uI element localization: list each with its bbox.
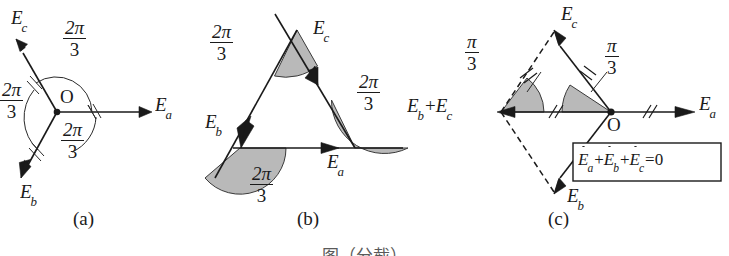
- phasor-ea-b-base: E: [327, 152, 339, 172]
- phasor-eq-eb-sub: b: [613, 162, 619, 175]
- panel-a-star-phasor-diagram: O 2π 3: [0, 0, 210, 240]
- phasor-ec-c-sub: c: [572, 16, 578, 31]
- frac-b-2-num: 2π: [357, 72, 380, 92]
- panel-b-triangle-phasor-diagram: 2π 3 2π 3 2π 3: [205, 0, 420, 240]
- label-ea-c: Ea: [699, 94, 729, 128]
- caption-b: (b): [297, 208, 319, 230]
- angle-label-c-1: π 3: [465, 32, 513, 84]
- eq-result: 0: [655, 150, 664, 169]
- phasor-ea-b-sub: a: [338, 164, 344, 179]
- frac-a-3-num: 2π: [0, 80, 23, 100]
- phasor-eb-c-base: E: [567, 186, 579, 206]
- phasor-eb-c-sub: b: [578, 198, 584, 213]
- label-ec-b: Ec: [313, 18, 369, 52]
- angle-sector-c-origin: [562, 85, 611, 112]
- phasor-eb-b-base: E: [205, 112, 217, 132]
- frac-b-2-den: 3: [357, 92, 380, 113]
- phasor-ea-c-sub: a: [710, 106, 716, 121]
- frac-a-3: 2π 3: [0, 80, 23, 122]
- figure-caption: 图（分截）: [0, 242, 729, 256]
- phasor-ec-c-base: E: [561, 4, 573, 24]
- phasor-ea-a-base: E: [155, 95, 167, 115]
- phasor-eb-a: Eb: [20, 182, 38, 206]
- caption-a: (a): [73, 208, 94, 230]
- frac-b-2: 2π 3: [357, 72, 380, 114]
- label-eb-b: Eb: [205, 112, 261, 146]
- label-ec-c: Ec: [561, 4, 617, 38]
- frac-a-3-den: 3: [0, 100, 23, 121]
- phasor-eq-ea-sub: a: [587, 162, 593, 175]
- frac-a-2-den: 3: [61, 140, 84, 161]
- frac-b-3-den: 3: [250, 184, 273, 205]
- angle-label-b-1: 2π 3: [210, 22, 270, 76]
- tick-double-ec: [580, 66, 596, 80]
- phasor-eq-eb: Eb: [604, 151, 620, 172]
- frac-b-1: 2π 3: [210, 22, 233, 64]
- phasor-ec-a: Ec: [11, 8, 28, 32]
- frac-c-2-num: π: [605, 36, 619, 56]
- phasor-eq-ec: Ec: [630, 151, 646, 172]
- frac-c-2: π 3: [605, 36, 619, 78]
- phasor-ec-a-sub: c: [22, 20, 28, 35]
- phasor-eb-a-base: E: [20, 182, 32, 202]
- angle-label-a-1: 2π 3: [63, 18, 123, 70]
- phasor-eb-b-sub: b: [216, 124, 222, 139]
- phasor-ea-a-sub: a: [166, 107, 172, 122]
- frac-c-2-den: 3: [605, 56, 619, 77]
- frac-b-1-num: 2π: [210, 22, 233, 42]
- phasor-ea-c: Ea: [699, 94, 717, 118]
- dashed-resultant-to-eb: [501, 112, 554, 192]
- label-eb-a: Eb: [20, 182, 76, 216]
- origin-label-c: O: [607, 115, 633, 143]
- phasor-resultant-ec: Ec: [436, 96, 453, 120]
- phasor-ec-a-base: E: [11, 8, 23, 28]
- panel-c-rhombus-sum-diagram: O π 3: [415, 0, 729, 240]
- label-ea-b: Ea: [327, 152, 383, 186]
- eq-op-2: +: [620, 150, 630, 169]
- phasor-eb-c: Eb: [567, 186, 585, 210]
- phasor-ea-c-base: E: [699, 94, 711, 114]
- figure-root: O 2π 3: [0, 0, 729, 256]
- label-ea-a: Ea: [155, 95, 211, 129]
- phasor-ec-b: Ec: [313, 18, 330, 42]
- phasor-ea-a: Ea: [155, 95, 173, 119]
- phasor-resultant-eb: Eb: [407, 96, 425, 120]
- angle-label-a-2: 2π 3: [61, 120, 121, 172]
- phasor-ec-c: Ec: [561, 4, 578, 28]
- origin-label-c-text: O: [607, 115, 621, 134]
- eq-equals: =: [645, 150, 655, 169]
- phasor-eb-b: Eb: [205, 112, 223, 136]
- phasor-ea-b: Ea: [327, 152, 345, 176]
- origin-label-a-text: O: [60, 87, 74, 106]
- frac-c-1-den: 3: [465, 52, 479, 73]
- frac-c-1: π 3: [465, 32, 479, 74]
- angle-label-a-3: 2π 3: [0, 80, 60, 132]
- resultant-plus-op: +: [425, 96, 436, 116]
- phasor-ec-b-sub: c: [324, 30, 330, 45]
- label-eb-c: Eb: [567, 186, 623, 220]
- phasor-resultant-eb-sub: b: [418, 108, 424, 123]
- phasor-eb-a-sub: b: [31, 194, 37, 209]
- angle-label-c-2: π 3: [605, 36, 653, 88]
- origin-label-a: O: [60, 87, 86, 113]
- phasor-ec-b-base: E: [313, 18, 325, 38]
- phasor-eq-ea: Ea: [578, 151, 594, 172]
- frac-b-3-num: 2π: [250, 164, 273, 184]
- frac-c-1-num: π: [465, 32, 479, 52]
- phasor-eq-ec-sub: c: [639, 162, 644, 175]
- frac-b-1-den: 3: [210, 42, 233, 63]
- equation-content: Ea+Eb+Ec=0: [578, 146, 724, 182]
- phasor-resultant-eb-base: E: [407, 96, 419, 116]
- phasor-resultant-ec-sub: c: [446, 108, 452, 123]
- label-ec-a: Ec: [11, 8, 67, 42]
- frac-a-2: 2π 3: [61, 120, 84, 162]
- frac-b-3: 2π 3: [250, 164, 273, 206]
- frac-a-2-num: 2π: [61, 120, 84, 140]
- eq-op-1: +: [594, 150, 604, 169]
- caption-c: (c): [548, 208, 569, 230]
- label-resultant-c: Eb+Ec: [407, 96, 507, 132]
